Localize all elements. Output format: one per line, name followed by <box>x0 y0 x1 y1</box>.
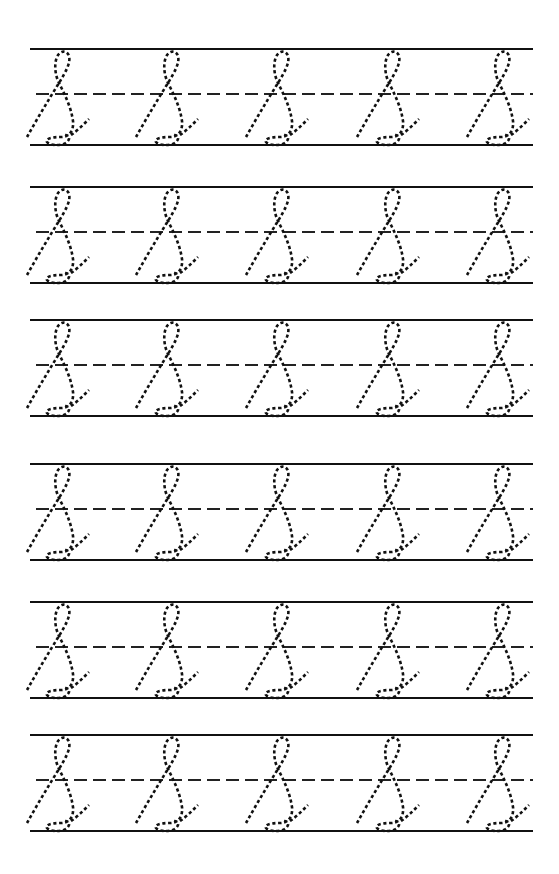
row-guides <box>0 182 559 292</box>
dotted-letter-stroke <box>467 190 529 283</box>
dotted-letter-stroke <box>246 467 308 560</box>
dotted-letter-stroke <box>27 323 89 416</box>
row-guides <box>0 730 559 840</box>
tracing-letter-L <box>467 52 529 145</box>
dotted-letter-stroke <box>27 605 89 698</box>
tracing-letter-L <box>27 467 89 560</box>
tracing-row <box>0 730 559 840</box>
dotted-letter-stroke <box>357 738 419 831</box>
tracing-letter-L <box>467 323 529 416</box>
dotted-letter-stroke <box>467 738 529 831</box>
tracing-letter-L <box>136 467 198 560</box>
tracing-letter-L <box>27 190 89 283</box>
dotted-letter-stroke <box>467 52 529 145</box>
dotted-letter-stroke <box>246 738 308 831</box>
dotted-letter-stroke <box>27 738 89 831</box>
tracing-letter-L <box>357 190 419 283</box>
tracing-letter-L <box>357 738 419 831</box>
tracing-letter-L <box>246 323 308 416</box>
dotted-letter-stroke <box>27 467 89 560</box>
row-guides <box>0 459 559 569</box>
tracing-letter-L <box>246 738 308 831</box>
tracing-row <box>0 597 559 707</box>
dotted-letter-stroke <box>136 190 198 283</box>
dotted-letter-stroke <box>246 605 308 698</box>
dotted-letter-stroke <box>136 467 198 560</box>
tracing-letter-L <box>357 467 419 560</box>
dotted-letter-stroke <box>27 190 89 283</box>
tracing-letter-L <box>27 738 89 831</box>
tracing-letter-L <box>27 605 89 698</box>
tracing-letter-L <box>27 323 89 416</box>
dotted-letter-stroke <box>357 190 419 283</box>
row-guides <box>0 315 559 425</box>
tracing-letter-L <box>246 605 308 698</box>
tracing-letter-L <box>136 190 198 283</box>
tracing-letter-L <box>467 467 529 560</box>
dotted-letter-stroke <box>467 605 529 698</box>
dotted-letter-stroke <box>467 467 529 560</box>
dotted-letter-stroke <box>357 52 419 145</box>
dotted-letter-stroke <box>467 323 529 416</box>
tracing-letter-L <box>136 52 198 145</box>
dotted-letter-stroke <box>357 323 419 416</box>
dotted-letter-stroke <box>357 467 419 560</box>
tracing-letter-L <box>136 605 198 698</box>
tracing-letter-L <box>246 467 308 560</box>
tracing-letter-L <box>467 738 529 831</box>
dotted-letter-stroke <box>136 52 198 145</box>
tracing-letter-L <box>246 190 308 283</box>
dotted-letter-stroke <box>246 323 308 416</box>
dotted-letter-stroke <box>136 605 198 698</box>
tracing-row <box>0 182 559 292</box>
tracing-row <box>0 459 559 569</box>
row-guides <box>0 597 559 707</box>
tracing-letter-L <box>357 323 419 416</box>
tracing-letter-L <box>357 52 419 145</box>
dotted-letter-stroke <box>136 738 198 831</box>
tracing-letter-L <box>246 52 308 145</box>
dotted-letter-stroke <box>357 605 419 698</box>
tracing-letter-L <box>136 323 198 416</box>
row-guides <box>0 44 559 154</box>
tracing-row <box>0 315 559 425</box>
tracing-letter-L <box>136 738 198 831</box>
tracing-letter-L <box>467 190 529 283</box>
tracing-letter-L <box>27 52 89 145</box>
tracing-row <box>0 44 559 154</box>
tracing-letter-L <box>467 605 529 698</box>
tracing-worksheet <box>0 0 559 874</box>
dotted-letter-stroke <box>27 52 89 145</box>
dotted-letter-stroke <box>246 190 308 283</box>
dotted-letter-stroke <box>246 52 308 145</box>
tracing-letter-L <box>357 605 419 698</box>
dotted-letter-stroke <box>136 323 198 416</box>
